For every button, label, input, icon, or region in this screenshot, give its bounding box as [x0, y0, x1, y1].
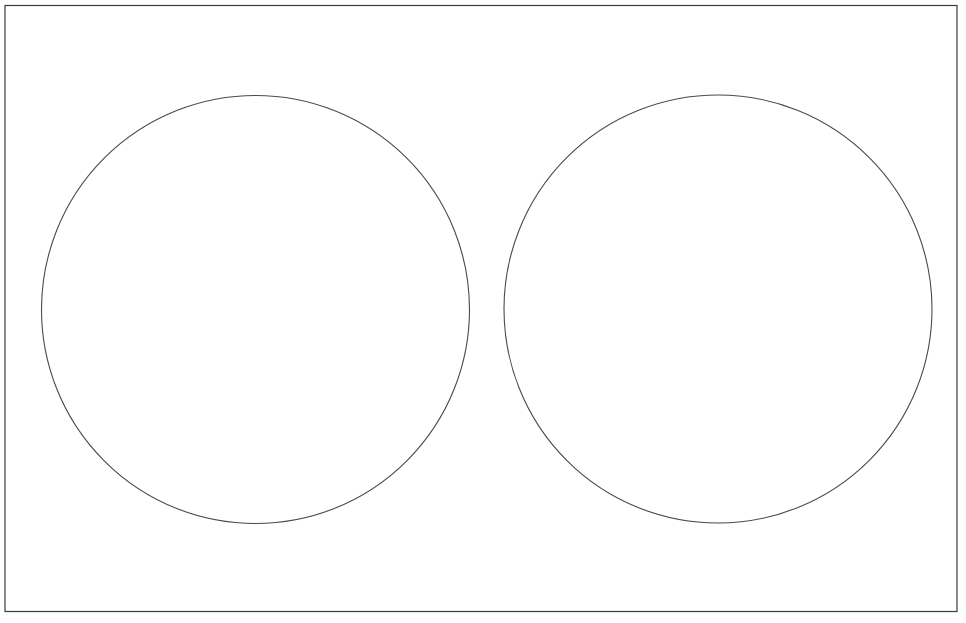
canvas-background — [0, 0, 966, 623]
figure-svg — [0, 0, 966, 623]
figure-canvas — [0, 0, 966, 623]
